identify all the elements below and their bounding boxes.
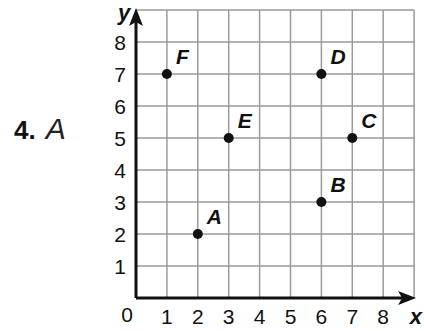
point-f — [162, 69, 172, 79]
y-tick-label: 5 — [114, 127, 126, 150]
point-b — [316, 197, 326, 207]
x-tick-label: 3 — [223, 305, 235, 328]
point-d — [316, 69, 326, 79]
point-label-e: E — [238, 109, 253, 132]
x-tick-label: 1 — [161, 305, 173, 328]
point-e — [224, 133, 234, 143]
point-a — [193, 229, 203, 239]
point-c — [347, 133, 357, 143]
x-tick-label: 6 — [316, 305, 328, 328]
y-tick-label: 8 — [114, 31, 126, 54]
point-label-c: C — [361, 109, 377, 132]
y-tick-label: 6 — [114, 95, 126, 118]
coordinate-grid: 12345678123456780xyABCDEF — [0, 0, 424, 331]
x-tick-label: 4 — [254, 305, 266, 328]
y-tick-label: 3 — [114, 191, 126, 214]
point-label-b: B — [330, 173, 345, 196]
y-tick-label: 4 — [114, 159, 126, 182]
x-tick-label: 7 — [346, 305, 358, 328]
x-axis-label: x — [409, 304, 423, 329]
point-label-f: F — [176, 45, 190, 68]
x-tick-label: 8 — [377, 305, 389, 328]
y-tick-label: 1 — [114, 255, 126, 278]
x-tick-label: 5 — [285, 305, 297, 328]
x-tick-label: 2 — [192, 305, 204, 328]
y-axis-label: y — [117, 0, 132, 25]
point-label-a: A — [206, 205, 222, 228]
point-label-d: D — [330, 45, 345, 68]
y-tick-label: 2 — [114, 223, 126, 246]
y-tick-label: 7 — [114, 63, 126, 86]
origin-label: 0 — [121, 303, 133, 326]
